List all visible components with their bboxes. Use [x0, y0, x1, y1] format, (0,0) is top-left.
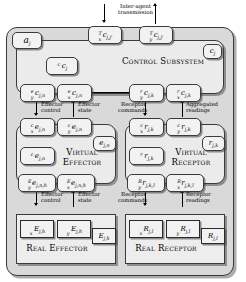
agent-label-box: aj — [12, 32, 42, 49]
effector-control-arrow-upper — [34, 113, 38, 116]
receptor-commands-label-lower: Receptor commands — [118, 191, 146, 203]
port-real-receptor-y: yRj,l — [166, 220, 200, 238]
effector-state-lower-line2: state — [78, 197, 92, 203]
virtual-receptor-internal-text: rrj,k — [139, 152, 153, 161]
incoming-transmission-arrow — [102, 20, 106, 23]
port-virtual-receptor-cx: cxrj,k — [129, 118, 164, 136]
port-control-effector-x: excj,n — [57, 84, 92, 102]
port-virtual-receptor-Ry-text: Ryrj,k,l — [137, 179, 154, 188]
receptor-commands-arrow-lower — [143, 203, 147, 206]
inter-agent-line2: transmission — [118, 9, 153, 15]
tx-transmission-box: Txcj,j' — [88, 26, 122, 44]
virtual-effector-internal-box: cej,n — [20, 147, 55, 165]
aggregated-readings-label: Aggregated readings — [186, 101, 218, 113]
control-internal-box: ccj — [46, 57, 78, 75]
agent-label-text: aj — [24, 35, 31, 46]
receptor-commands-arrow-upper — [143, 113, 147, 116]
effector-state-line-lower — [73, 192, 74, 207]
port-real-receptor-x-text: xRj,l — [139, 225, 154, 234]
real-effector-corner-text: Ej,h — [98, 232, 109, 241]
virtual-effector-corner-text: ej,n — [99, 139, 109, 148]
port-control-receptor-x: rxcj,k — [166, 84, 201, 102]
effector-control-label-lower: Effector control — [41, 191, 63, 203]
port-control-receptor-y: rycj,k — [129, 84, 164, 102]
control-subsystem-title: Control Subsystem — [108, 57, 218, 67]
receptor-commands-lower-line2: commands — [118, 197, 147, 203]
control-internal-text: ccj — [57, 62, 67, 71]
receptor-readings-label: Receptor readings — [186, 191, 211, 203]
port-control-effector-y: eycj,n — [20, 84, 55, 102]
aggregated-readings-line2: readings — [186, 107, 210, 113]
real-receptor-corner-text: Rj,l — [208, 232, 218, 241]
port-control-effector-x-text: excj,n — [67, 89, 82, 98]
outgoing-transmission-line — [155, 6, 156, 24]
outgoing-transmission-arrow — [153, 3, 157, 6]
port-virtual-receptor-cy-text: cyrj,k — [176, 123, 190, 132]
port-real-effector-x-text: xEj,h — [29, 225, 45, 234]
port-control-effector-y-text: eycj,n — [30, 89, 45, 98]
port-virtual-receptor-cy: cyrj,k — [166, 118, 201, 136]
real-receptor-title: Real Receptor — [125, 244, 207, 254]
effector-state-line-upper — [73, 102, 74, 117]
port-virtual-receptor-Ry: Ryrj,k,l — [127, 174, 165, 192]
virtual-effector-corner-label: ej,n — [93, 136, 116, 151]
diagram-canvas: Inter-agent transmission aj cj Control S… — [0, 0, 246, 282]
real-effector-title: Real Effector — [16, 244, 98, 254]
ty-transmission-box: Tycj,j' — [139, 26, 173, 44]
virtual-effector-internal-text: cej,n — [30, 152, 45, 161]
real-receptor-corner-label: Rj,l — [201, 228, 225, 244]
port-virtual-effector-Ex: Exej,n,h — [57, 174, 95, 192]
virtual-receptor-corner-text: rj,k — [209, 139, 218, 148]
receptor-readings-line — [182, 192, 183, 207]
port-virtual-effector-cy: cyej,n — [57, 118, 92, 136]
ty-transmission-text: Tycj,j' — [149, 31, 164, 40]
real-effector-corner-label: Ej,h — [92, 228, 116, 244]
port-virtual-effector-Ex-text: Exej,n,h — [66, 179, 86, 188]
effector-state-label-lower: Effector state — [78, 191, 100, 203]
virtual-receptor-internal-box: rrj,k — [129, 147, 164, 165]
receptor-commands-upper-line2: commands — [118, 107, 147, 113]
port-virtual-effector-Ey-text: Eyej,n,h — [27, 179, 47, 188]
port-virtual-receptor-cx-text: cxrj,k — [139, 123, 153, 132]
port-virtual-receptor-Rx-text: Rxrj,k,l — [176, 179, 193, 188]
port-virtual-effector-cy-text: cyej,n — [67, 123, 82, 132]
port-real-effector-y-text: yEj,h — [66, 225, 82, 234]
port-real-effector-x: xEj,h — [20, 220, 54, 238]
control-internal-connector — [90, 92, 129, 93]
port-real-effector-y: yEj,h — [57, 220, 91, 238]
effector-control-upper-line2: control — [41, 107, 60, 113]
inter-agent-transmission-label: Inter-agent transmission — [118, 3, 153, 15]
effector-state-upper-line2: state — [78, 107, 92, 113]
effector-state-label-upper: Effector state — [78, 101, 100, 113]
receptor-commands-label-upper: Receptor commands — [118, 101, 146, 113]
effector-control-arrow-lower — [34, 203, 38, 206]
port-real-receptor-y-text: yRj,l — [176, 225, 191, 234]
port-virtual-effector-cx: cxej,n — [20, 118, 55, 136]
port-control-receptor-x-text: rxcj,k — [176, 89, 191, 98]
virtual-receptor-corner-label: rj,k — [202, 136, 225, 151]
aggregated-readings-line — [182, 102, 183, 117]
port-real-receptor-x: xRj,l — [129, 220, 163, 238]
tx-transmission-text: Txcj,j' — [98, 31, 113, 40]
effector-control-lower-line2: control — [41, 197, 60, 203]
port-control-receptor-y-text: rycj,k — [139, 89, 154, 98]
control-subsystem-corner-text: cj — [210, 47, 215, 56]
receptor-readings-line2: readings — [186, 197, 210, 203]
port-virtual-effector-cx-text: cxej,n — [30, 123, 45, 132]
port-virtual-receptor-Rx: Rxrj,k,l — [166, 174, 204, 192]
port-virtual-effector-Ey: Eyej,n,h — [18, 174, 56, 192]
control-subsystem-corner-label: cj — [203, 44, 222, 59]
effector-control-label-upper: Effector control — [41, 101, 63, 113]
